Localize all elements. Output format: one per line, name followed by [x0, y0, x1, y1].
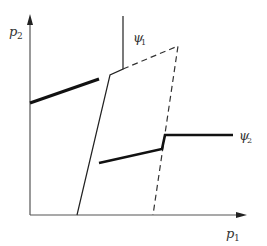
psi2-thick-curve [99, 135, 233, 163]
y-axis-arrow-icon [27, 14, 33, 25]
x-axis-arrow-icon [236, 212, 247, 218]
dashed-curve [123, 46, 178, 215]
x-axis-label-sub: 1 [234, 233, 240, 243]
psi1-solid-curve [77, 16, 123, 215]
psi2-label-sub: 2 [247, 136, 252, 145]
psi1-label-sub: 1 [141, 38, 146, 47]
thick-segment-upper [30, 79, 99, 103]
diagram-canvas: p 2 p 1 ψ 1 ψ 2 [0, 0, 267, 246]
y-axis-label-sub: 2 [17, 31, 23, 41]
